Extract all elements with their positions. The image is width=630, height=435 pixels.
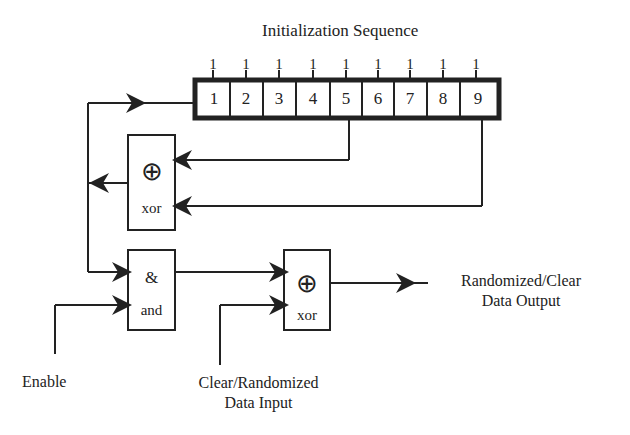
init-bit: 1	[208, 56, 218, 73]
init-bit: 1	[308, 56, 318, 73]
register-cell: 5	[331, 89, 361, 109]
register-cell: 2	[231, 89, 261, 109]
init-bit: 1	[373, 56, 383, 73]
output-gate-label: xor	[284, 307, 330, 324]
register-cell: 6	[363, 89, 393, 109]
diagram-title: Initialization Sequence	[262, 21, 418, 41]
output-label-line2: Data Output	[436, 291, 606, 310]
init-bit: 1	[274, 56, 284, 73]
enable-label: Enable	[22, 372, 66, 391]
and-symbol-icon: &	[128, 268, 175, 288]
register-cell: 9	[463, 89, 493, 109]
input-label-line1: Clear/Randomized	[176, 373, 341, 392]
and-gate-label: and	[128, 302, 175, 319]
init-bit: 1	[438, 56, 448, 73]
register-cell: 4	[298, 89, 328, 109]
xor-symbol-icon: ⊕	[128, 156, 175, 187]
register-cell: 8	[428, 89, 458, 109]
register-cell: 7	[395, 89, 425, 109]
xor-symbol-icon: ⊕	[284, 268, 330, 299]
register-cell: 3	[264, 89, 294, 109]
feedback-gate-label: xor	[128, 200, 175, 217]
register-cell: 1	[199, 89, 229, 109]
input-label-line2: Data Input	[176, 393, 341, 412]
init-bit: 1	[405, 56, 415, 73]
init-bit: 1	[341, 56, 351, 73]
output-label-line1: Randomized/Clear	[436, 271, 606, 290]
init-bit: 1	[471, 56, 481, 73]
init-bit: 1	[241, 56, 251, 73]
